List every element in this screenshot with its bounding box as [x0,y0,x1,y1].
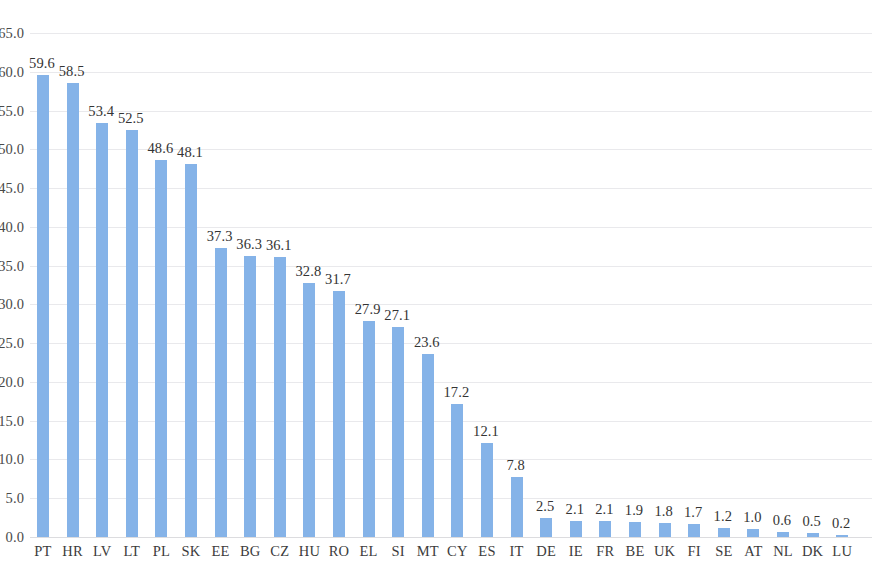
bar-value-label: 2.1 [566,501,584,518]
bar[interactable] [599,521,611,537]
x-axis-tick-label: ES [478,543,495,560]
bar-value-label: 2.5 [536,498,554,515]
bar[interactable] [333,291,345,537]
y-axis-tick-label: 65.0 [0,25,24,42]
y-axis-tick-label: 0.0 [6,529,24,546]
x-axis-tick-label: PL [153,543,170,560]
bar-value-label: 23.6 [414,334,440,351]
x-axis-tick-label: FI [688,543,701,560]
bar-value-label: 0.6 [773,512,791,529]
y-axis-tick-label: 30.0 [0,296,24,313]
bar[interactable] [126,130,138,537]
bar-chart: 0.05.010.015.020.025.030.035.040.045.050… [0,0,878,577]
bar-value-label: 1.0 [743,509,761,526]
x-axis-tick-label: PT [34,543,51,560]
bar-value-label: 1.2 [714,508,732,525]
x-axis-tick-label: SE [715,543,732,560]
bar[interactable] [511,477,523,537]
y-axis-tick-label: 40.0 [0,218,24,235]
x-axis-tick-label: BG [240,543,261,560]
bar[interactable] [274,257,286,537]
x-axis-tick-label: MT [417,543,439,560]
y-axis-tick-label: 55.0 [0,102,24,119]
y-axis-tick-label: 35.0 [0,257,24,274]
y-axis-tick-label: 15.0 [0,412,24,429]
bars: 59.658.553.452.548.648.137.336.336.132.8… [30,33,872,537]
bar-value-label: 36.3 [236,236,262,253]
x-axis-tick-label: IT [510,543,524,560]
bar[interactable] [807,533,819,537]
x-axis-tick-label: EE [212,543,230,560]
x-axis-tick-label: LT [123,543,140,560]
bar[interactable] [659,523,671,537]
x-axis-tick-label: HR [62,543,83,560]
bar[interactable] [96,123,108,537]
bar[interactable] [777,532,789,537]
bar-value-label: 12.1 [473,423,499,440]
y-axis-tick-label: 10.0 [0,451,24,468]
x-axis-tick-label: BE [626,543,645,560]
x-axis-tick-label: CZ [270,543,289,560]
y-axis-tick-label: 20.0 [0,373,24,390]
bar[interactable] [540,518,552,537]
y-axis-tick-label: 5.0 [6,490,24,507]
bar-value-label: 2.1 [595,501,613,518]
bar-value-label: 0.5 [802,513,820,530]
bar-value-label: 32.8 [296,263,322,280]
x-axis-tick-label: HU [299,543,320,560]
y-axis-tick-label: 25.0 [0,335,24,352]
y-axis-tick-label: 45.0 [0,180,24,197]
x-axis-tick-label: EL [360,543,378,560]
y-axis-tick-label: 50.0 [0,141,24,158]
y-axis-tick-label: 60.0 [0,63,24,80]
bar[interactable] [392,327,404,537]
x-axis-tick-label: LU [832,543,852,560]
bar-value-label: 17.2 [444,384,470,401]
bar[interactable] [836,535,848,537]
x-axis-tick-label: DE [536,543,556,560]
x-axis-tick-label: SI [392,543,405,560]
x-axis-tick-label: NL [773,543,793,560]
bar[interactable] [155,160,167,537]
bar[interactable] [67,83,79,537]
bar-value-label: 53.4 [88,103,114,120]
bar[interactable] [747,529,759,537]
bar-value-label: 0.2 [832,515,850,532]
bar[interactable] [422,354,434,537]
gridline [30,537,872,538]
x-axis-tick-label: UK [654,543,675,560]
bar[interactable] [688,524,700,537]
x-axis-tick-label: IE [569,543,583,560]
bar-value-label: 27.9 [355,301,381,318]
bar-value-label: 31.7 [325,271,351,288]
x-axis: PTHRLVLTPLSKEEBGCZHUROELSIMTCYESITDEIEFR… [30,543,872,573]
bar-value-label: 37.3 [207,228,233,245]
bar[interactable] [363,321,375,537]
bar-value-label: 1.8 [654,503,672,520]
bar-value-label: 27.1 [384,307,410,324]
x-axis-tick-label: RO [329,543,350,560]
bar-value-label: 36.1 [266,237,292,254]
bar[interactable] [215,248,227,537]
x-axis-tick-label: LV [93,543,111,560]
bar[interactable] [37,75,49,537]
bar[interactable] [481,443,493,537]
bar[interactable] [629,522,641,537]
y-axis: 0.05.010.015.020.025.030.035.040.045.050… [0,0,30,577]
bar[interactable] [185,164,197,537]
bar-value-label: 48.1 [177,144,203,161]
x-axis-tick-label: AT [744,543,762,560]
bar[interactable] [244,256,256,537]
x-axis-tick-label: FR [596,543,614,560]
bar[interactable] [451,404,463,537]
x-axis-tick-label: DK [802,543,823,560]
bar[interactable] [570,521,582,537]
bar-value-label: 7.8 [506,457,524,474]
bar[interactable] [303,283,315,537]
bar-value-label: 1.9 [625,502,643,519]
bar-value-label: 1.7 [684,504,702,521]
bar-value-label: 58.5 [59,63,85,80]
bar-value-label: 52.5 [118,110,144,127]
bar[interactable] [718,528,730,537]
bar-value-label: 59.6 [29,55,55,72]
